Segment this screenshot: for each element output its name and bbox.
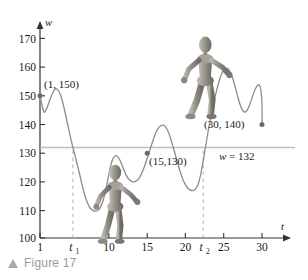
y-tick-label-160: 160 <box>19 61 37 73</box>
y-tick-label-140: 140 <box>19 119 37 131</box>
y-axis-arrowhead <box>37 21 44 29</box>
label-reference-line: w = 132 <box>219 150 255 162</box>
x-axis-ticks: 1 10 15 20 25 30 t 1 t 2 <box>37 233 268 256</box>
axes <box>37 21 291 241</box>
label-point-30-140: (30, 140) <box>204 118 245 131</box>
y-tick-label-150: 150 <box>19 90 37 102</box>
x-tick-label-t2-letter: t <box>200 241 204 253</box>
y-tick-label-170: 170 <box>19 33 37 45</box>
y-tick-label-130: 130 <box>19 147 37 159</box>
x-tick-label-30: 30 <box>256 241 268 253</box>
label-point-1-150: (1, 150) <box>44 78 79 91</box>
x-axis-arrowhead <box>283 235 291 242</box>
marker-point-30-140 <box>260 122 265 127</box>
y-axis-label: w <box>45 17 52 28</box>
caption-triangle-icon <box>8 259 18 268</box>
x-tick-label-t1: t 1 <box>69 241 79 256</box>
x-tick-label-25: 25 <box>218 241 230 253</box>
caption-text: Figure 17 <box>24 256 77 270</box>
x-axis-label: t <box>281 221 285 232</box>
x-tick-label-t1-letter: t <box>69 241 73 253</box>
weight-vs-time-line-chart: w t 170 160 150 140 130 120 110 100 <box>0 0 308 280</box>
x-tick-label-1: 1 <box>37 241 43 253</box>
y-tick-label-120: 120 <box>19 176 37 188</box>
walking-mannequin-lower-icon <box>93 165 140 244</box>
label-point-15-130: (15,130) <box>149 155 187 168</box>
x-tick-label-t2-subscript: 2 <box>206 247 210 256</box>
x-tick-label-t2: t 2 <box>200 241 210 256</box>
marker-point-1-150 <box>38 93 43 98</box>
y-tick-label-110: 110 <box>19 205 36 217</box>
y-tick-label-100: 100 <box>19 232 37 244</box>
figure-caption: Figure 17 <box>8 256 77 270</box>
figure-17-container: w t 170 160 150 140 130 120 110 100 <box>0 0 308 280</box>
y-axis-ticks: 170 160 150 140 130 120 110 100 <box>19 33 45 245</box>
x-tick-label-20: 20 <box>180 241 192 253</box>
x-tick-label-15: 15 <box>141 241 153 253</box>
x-tick-label-t1-subscript: 1 <box>76 247 80 256</box>
walking-mannequin-upper-icon <box>181 36 232 119</box>
